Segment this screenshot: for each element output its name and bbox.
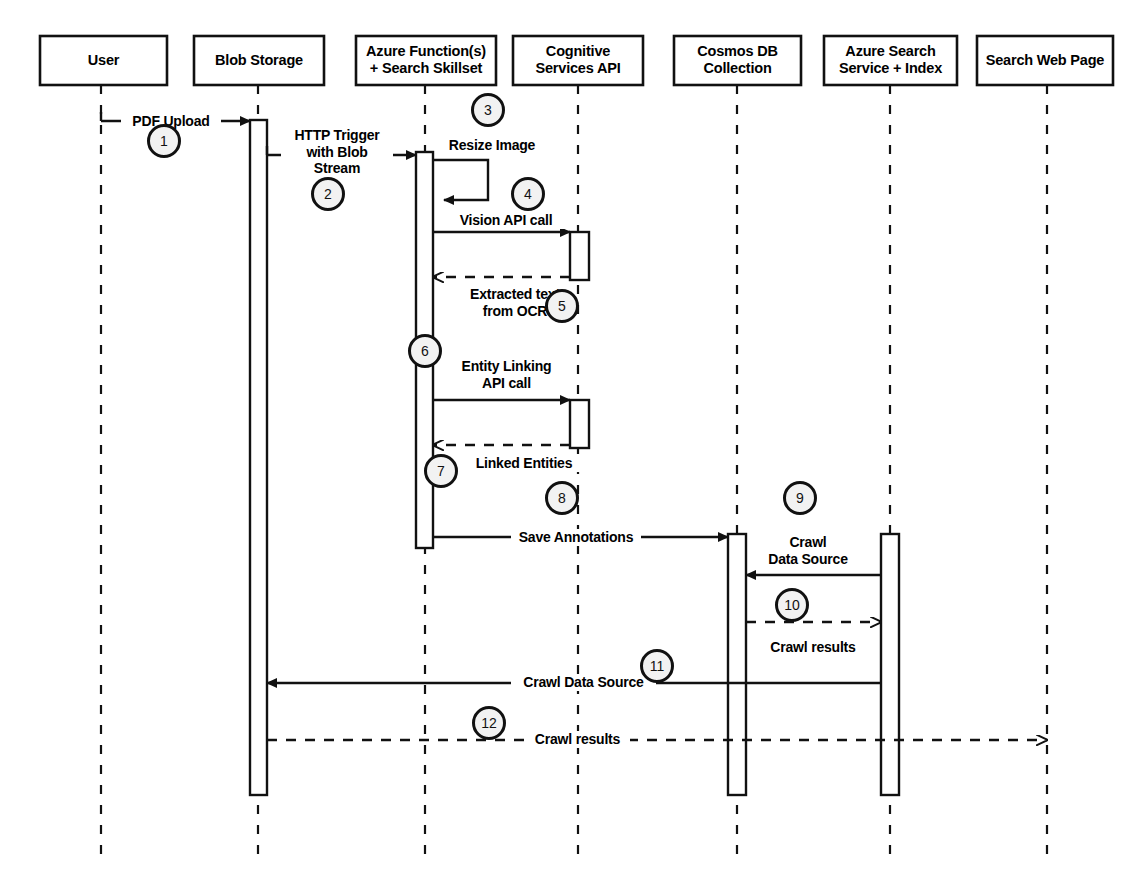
message-label-7: Linked Entities (464, 455, 584, 472)
step-number-12: 12 (472, 706, 506, 740)
step-number-6: 6 (408, 334, 442, 368)
step-number-2: 2 (311, 177, 345, 211)
message-label-9: Crawl Data Source (758, 534, 858, 567)
step-number-4: 4 (511, 177, 545, 211)
participant-label-user: User (40, 52, 167, 69)
step-number-3: 3 (471, 93, 505, 127)
activation-bar-cognitive-2 (570, 232, 589, 280)
message-label-11: Crawl Data Source (511, 674, 656, 691)
participant-label-blob: Blob Storage (194, 52, 324, 69)
participant-label-search: Azure Search Service + Index (824, 43, 957, 77)
participant-label-cosmos: Cosmos DB Collection (674, 43, 801, 77)
message-self-3 (433, 160, 488, 200)
participant-label-cognitive: Cognitive Services API (513, 43, 643, 77)
message-label-10: Crawl results (763, 639, 863, 656)
step-number-11: 11 (640, 649, 674, 683)
sequence-diagram: UserBlob StorageAzure Function(s) + Sear… (0, 0, 1145, 891)
step-number-5: 5 (545, 289, 579, 323)
message-label-2: HTTP Trigger with Blob Stream (281, 127, 393, 177)
activation-bar-cognitive-3 (570, 400, 589, 448)
step-number-7: 7 (424, 454, 458, 488)
activation-bar-search-5 (881, 534, 899, 795)
step-number-10: 10 (775, 588, 809, 622)
message-label-12: Crawl results (525, 731, 630, 748)
message-label-6: Entity Linking API call (449, 358, 564, 391)
participant-label-webpage: Search Web Page (977, 52, 1113, 69)
activation-bar-cosmos-4 (728, 534, 746, 795)
message-label-4: Vision API call (441, 212, 571, 229)
participant-label-func: Azure Function(s) + Search Skillset (356, 43, 496, 77)
message-label-8: Save Annotations (511, 529, 641, 546)
step-number-1: 1 (147, 124, 181, 158)
activation-bar-blob-0 (250, 120, 267, 795)
message-label-3: Resize Image (437, 137, 547, 154)
step-number-9: 9 (783, 481, 817, 515)
step-number-8: 8 (545, 481, 579, 515)
